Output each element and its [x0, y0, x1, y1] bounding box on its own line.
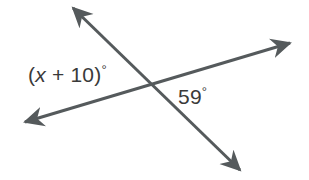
angle-label-x-plus-10: (x + 10)°	[28, 64, 107, 85]
right-angle-degree-symbol: °	[202, 84, 207, 99]
angle-label-59: 59°	[178, 86, 207, 107]
intersecting-lines-svg	[0, 0, 309, 180]
right-angle-value: 59	[178, 85, 202, 108]
left-angle-variable: x	[35, 63, 46, 86]
geometry-figure: (x + 10)° 59°	[0, 0, 309, 180]
steep-line	[73, 8, 240, 170]
left-angle-constant: 10	[70, 63, 94, 86]
left-angle-operator: +	[52, 63, 64, 86]
left-angle-degree-symbol: °	[101, 62, 106, 77]
